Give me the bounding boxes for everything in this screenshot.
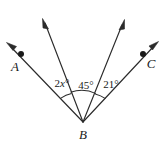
ray-upper-left-arrow-icon [43, 19, 49, 30]
ray-b-upper-right-line [83, 25, 122, 122]
point-a-label: A [10, 59, 19, 74]
vertex-b-label: B [79, 127, 87, 141]
arrowhead-group [7, 19, 159, 51]
angle-45-value: 45 [78, 79, 90, 91]
ray-ba-line [11, 47, 83, 122]
angle-2x-degree-symbol: ° [65, 77, 69, 89]
angle-21-arc [95, 94, 105, 99]
angle-2x-label: 2x° [55, 77, 70, 89]
angle-21-label: 21° [103, 78, 118, 90]
ray-group [11, 23, 154, 122]
ray-b-upper-left-line [45, 23, 83, 122]
angle-arc-group [61, 90, 106, 98]
angle-21-value: 21 [103, 78, 114, 90]
point-dot-group [18, 51, 146, 57]
geometry-canvas: A C B 2x° 45° 21° [0, 0, 166, 141]
point-c-label: C [147, 56, 156, 71]
point-c-dot [140, 51, 146, 57]
point-a-dot [18, 51, 24, 57]
angle-45-label: 45° [78, 79, 93, 91]
angle-label-group: 2x° 45° 21° [55, 77, 119, 91]
angle-21-degree-symbol: ° [114, 78, 118, 90]
ray-upper-right-arrow-icon [119, 20, 125, 31]
angle-45-degree-symbol: ° [89, 79, 93, 91]
angle-2x-arc [61, 94, 72, 99]
angle-diagram-figure: A C B 2x° 45° 21° [0, 0, 166, 141]
ray-ba-arrow-icon [7, 43, 17, 51]
ray-bc-arrow-icon [149, 42, 159, 51]
